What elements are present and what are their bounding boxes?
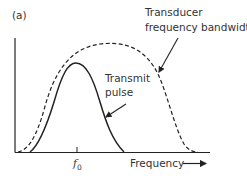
transmit-label-line1: Transmit — [104, 72, 150, 84]
frequency-spectrum-diagram: (a) Transducer frequency bandwidth Trans… — [0, 0, 247, 178]
transmit-arrow — [106, 104, 126, 117]
transducer-label-line2: frequency bandwidth — [145, 21, 247, 33]
transducer-label-line1: Transducer — [144, 6, 203, 18]
panel-label: (a) — [12, 9, 27, 21]
transmit-label-line2: pulse — [105, 86, 133, 98]
transducer-arrow — [159, 38, 178, 72]
f0-label: f0 — [72, 157, 82, 172]
x-axis-label: Frequency — [130, 157, 184, 169]
f0-label-sub: 0 — [77, 163, 82, 172]
